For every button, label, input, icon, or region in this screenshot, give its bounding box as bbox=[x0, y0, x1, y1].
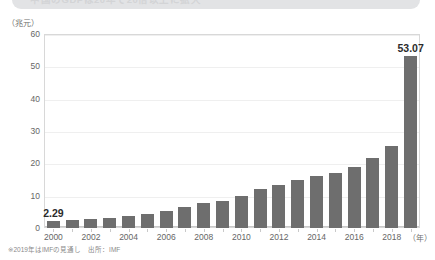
bar-slot bbox=[119, 34, 138, 228]
y-axis-tick-label: 60 bbox=[6, 29, 40, 39]
bar[interactable] bbox=[254, 189, 267, 228]
x-axis-tick bbox=[185, 229, 186, 232]
x-axis-tick-label: 2018 bbox=[382, 232, 401, 242]
bar-slot bbox=[401, 34, 420, 228]
chart-page: 中国のGDPは20年で20倍以上に拡大 （兆元） 0102030405060 2… bbox=[0, 0, 435, 260]
x-axis-tick bbox=[373, 229, 374, 232]
y-axis-tick-label: 20 bbox=[6, 158, 40, 168]
source-footnote: ※2019年はIMFの見通し 出所：IMF bbox=[8, 244, 120, 254]
bar-slot bbox=[345, 34, 364, 228]
x-axis-tick bbox=[335, 229, 336, 232]
bar-slot bbox=[176, 34, 195, 228]
bar[interactable] bbox=[84, 219, 97, 228]
x-axis-tick bbox=[298, 229, 299, 232]
bar-slot bbox=[232, 34, 251, 228]
x-axis-unit-label: （年） bbox=[408, 232, 432, 243]
bar[interactable] bbox=[197, 203, 210, 228]
x-axis-tick bbox=[223, 229, 224, 232]
bar[interactable] bbox=[235, 196, 248, 228]
bar[interactable] bbox=[66, 220, 79, 228]
bar-slot bbox=[251, 34, 270, 228]
bar[interactable] bbox=[216, 201, 229, 228]
y-axis-tick-label: 0 bbox=[6, 223, 40, 233]
data-label: 2.29 bbox=[43, 207, 63, 219]
bar-slot bbox=[270, 34, 289, 228]
y-axis-tick-label: 10 bbox=[6, 191, 40, 201]
bar-slot bbox=[44, 34, 63, 228]
bar-slot bbox=[364, 34, 383, 228]
bar[interactable] bbox=[103, 218, 116, 228]
bar[interactable] bbox=[160, 211, 173, 228]
x-axis-tick bbox=[72, 229, 73, 232]
bar-slot bbox=[63, 34, 82, 228]
bar-slot bbox=[288, 34, 307, 228]
bar-slot bbox=[307, 34, 326, 228]
bar-slot bbox=[382, 34, 401, 228]
bar[interactable] bbox=[122, 216, 135, 228]
x-axis-tick bbox=[110, 229, 111, 232]
bar[interactable] bbox=[291, 180, 304, 228]
bar-slot bbox=[100, 34, 119, 228]
x-axis-tick-label: 2002 bbox=[82, 232, 101, 242]
bar[interactable] bbox=[385, 146, 398, 228]
bar-slot bbox=[326, 34, 345, 228]
bar-slot bbox=[194, 34, 213, 228]
x-axis-ticks: 2000200220042006200820102012201420162018 bbox=[44, 229, 420, 243]
bar[interactable] bbox=[310, 176, 323, 228]
x-axis-tick-label: 2012 bbox=[270, 232, 289, 242]
bar-slot bbox=[138, 34, 157, 228]
bar[interactable] bbox=[404, 56, 417, 228]
bar[interactable] bbox=[178, 207, 191, 228]
x-axis-tick bbox=[147, 229, 148, 232]
y-axis-tick-label: 30 bbox=[6, 126, 40, 136]
x-axis-tick-label: 2008 bbox=[194, 232, 213, 242]
x-axis-tick bbox=[260, 229, 261, 232]
bar-series bbox=[44, 34, 420, 228]
bar[interactable] bbox=[47, 221, 60, 228]
x-axis-tick-label: 2000 bbox=[44, 232, 63, 242]
x-axis-tick-label: 2004 bbox=[119, 232, 138, 242]
banner-title: 中国のGDPは20年で20倍以上に拡大 bbox=[30, 0, 201, 6]
x-axis-tick-label: 2016 bbox=[345, 232, 364, 242]
bar-slot bbox=[157, 34, 176, 228]
data-label: 53.07 bbox=[397, 42, 423, 54]
bar[interactable] bbox=[366, 158, 379, 228]
bar[interactable] bbox=[348, 167, 361, 228]
y-axis-unit-label: （兆元） bbox=[7, 17, 39, 28]
x-axis-tick-label: 2010 bbox=[232, 232, 251, 242]
bar[interactable] bbox=[329, 173, 342, 228]
bar[interactable] bbox=[141, 214, 154, 228]
bar-slot bbox=[82, 34, 101, 228]
header-banner: 中国のGDPは20年で20倍以上に拡大 bbox=[12, 0, 420, 9]
y-axis-ticks: 0102030405060 bbox=[4, 34, 40, 228]
bar-slot bbox=[213, 34, 232, 228]
bar[interactable] bbox=[272, 185, 285, 228]
y-axis-tick-label: 40 bbox=[6, 94, 40, 104]
y-axis-tick-label: 50 bbox=[6, 61, 40, 71]
x-axis-tick-label: 2006 bbox=[157, 232, 176, 242]
x-axis-tick-label: 2014 bbox=[307, 232, 326, 242]
